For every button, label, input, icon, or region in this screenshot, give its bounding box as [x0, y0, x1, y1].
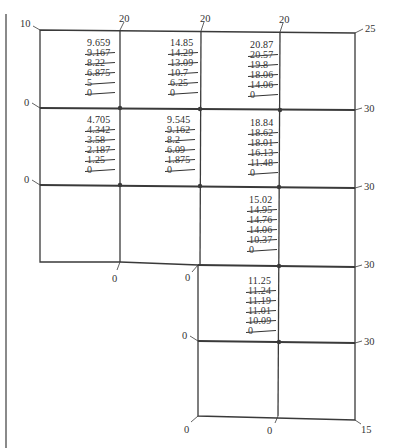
node-old-value: 0 — [250, 90, 274, 100]
boundary-label-top: 20 — [119, 13, 130, 24]
boundary-label-left: 0 — [24, 97, 29, 108]
boundary-label-left: 0 — [182, 330, 187, 341]
boundary-label-bottom: 0 — [184, 424, 189, 435]
boundary-label-left: 0 — [24, 174, 29, 185]
boundary-label-right: 30 — [364, 103, 375, 114]
boundary-label-right: 30 — [364, 181, 375, 192]
boundary-label-top: 20 — [279, 14, 290, 25]
node-value-stack-7: 15.02 14.95 14.76 14.06 10.37 0 — [249, 195, 273, 255]
boundary-label-top-left: 10 — [20, 18, 31, 29]
node-value-stack-3: 20.87 20.57 19.8 18.06 14.06 0 — [250, 40, 274, 100]
boundary-label-bottom-right: 15 — [361, 424, 372, 435]
node-old-value: 0 — [248, 326, 272, 336]
node-value-stack-8: 11.25 11.24 11.19 11.01 10.09 0 — [248, 276, 272, 336]
node-old-value: 0 — [87, 88, 111, 98]
boundary-label-top-right: 25 — [365, 23, 376, 34]
node-value-stack-5: 9.545 9.162 8.2 6.09 1.875 0 — [167, 115, 191, 175]
node-value-stack-4: 4.705 4.342 3.58 2.187 1.25 0 — [87, 115, 111, 175]
boundary-label-right: 30 — [364, 336, 375, 347]
boundary-label-right: 30 — [364, 259, 375, 270]
boundary-label-bottom: 0 — [112, 273, 117, 284]
node-old-value: 0 — [250, 168, 274, 178]
node-old-value: 0 — [87, 165, 111, 175]
node-old-value: 0 — [249, 245, 273, 255]
node-value-stack-1: 9.659 9.167 8.22 6.875 5 0 — [87, 38, 111, 98]
boundary-label-top: 20 — [200, 13, 211, 24]
node-old-value: 0 — [167, 165, 191, 175]
boundary-label-bottom: 0 — [185, 272, 190, 283]
node-old-value: 0 — [170, 88, 194, 98]
fd-grid-figure: 10 20 20 20 25 0 0 0 30 30 30 30 0 0 0 0… — [0, 0, 394, 448]
boundary-label-bottom: 0 — [267, 425, 272, 436]
grid-lines — [0, 0, 394, 448]
node-value-stack-2: 14.85 14.29 13.09 10.7 6.25 0 — [170, 38, 194, 98]
node-value-stack-6: 18.84 18.62 18.01 16.13 11.48 0 — [250, 118, 274, 178]
